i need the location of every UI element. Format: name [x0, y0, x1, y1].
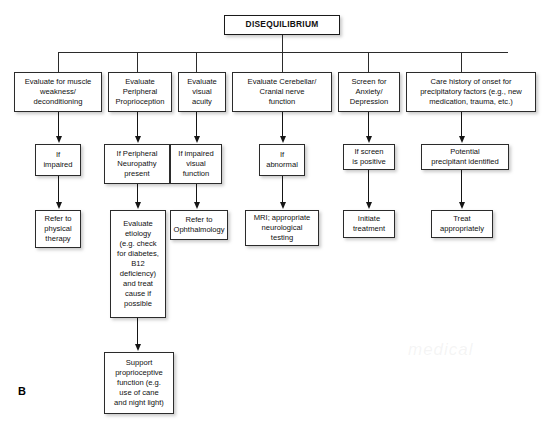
- node-assess-cerebellar-cranial-nerve: Evaluate Cerebellar/ Cranial nerve funct…: [232, 72, 332, 112]
- connector-bus-drop-5: [368, 52, 369, 72]
- node-condition-if-impaired-visual-function: If impaired visual function: [170, 144, 222, 184]
- node-assess-care-history: Care history of onset for precipitatory …: [406, 72, 536, 112]
- node-followup-support-proprioceptive-function: Support proprioceptive function (e.g. us…: [104, 352, 174, 414]
- node-condition-potential-precipitant: Potential precipitant identified: [421, 144, 509, 170]
- node-action-treat-appropriately: Treat appropriately: [431, 210, 493, 238]
- node-action-evaluate-etiology: Evaluate etiology (e.g. check for diabet…: [110, 210, 166, 318]
- flowchart-figure: medical DISEQUILIBRIUM Evaluate for musc…: [0, 0, 550, 432]
- connector-title-to-bus: [282, 35, 283, 52]
- node-condition-if-peripheral-neuropathy: If Peripheral Neuropathy present: [104, 144, 170, 184]
- arrow-condition-to-action-6: [461, 170, 462, 203]
- connector-bus-drop-1: [58, 52, 59, 72]
- node-disequilibrium-title: DISEQUILIBRIUM: [224, 15, 340, 35]
- watermark-text: medical: [408, 340, 474, 360]
- node-assess-anxiety-depression: Screen for Anxiety/ Depression: [338, 72, 400, 112]
- arrow-assess-to-condition-2: [137, 112, 138, 137]
- connector-bus-drop-2: [137, 52, 138, 72]
- node-action-refer-physical-therapy: Refer to physical therapy: [35, 210, 81, 248]
- arrow-assess-to-condition-4: [282, 112, 283, 137]
- connector-bus-drop-4: [282, 52, 283, 72]
- node-action-refer-ophthalmology: Refer to Ophthalmology: [170, 210, 228, 240]
- arrow-condition-to-action-4: [282, 176, 283, 203]
- arrow-assess-to-condition-3: [196, 112, 197, 137]
- node-condition-if-screen-positive: If screen is positive: [343, 144, 395, 170]
- connector-bus-drop-6: [461, 52, 462, 72]
- arrow-action-to-followup-2: [137, 318, 138, 345]
- node-action-mri-neurological-testing: MRI; appropriate neurological testing: [245, 210, 319, 246]
- arrow-condition-to-action-2: [137, 184, 138, 203]
- connector-distribution-bus: [58, 52, 508, 53]
- node-assess-visual-acuity: Evaluate visual acuity: [178, 72, 226, 112]
- connector-bus-drop-3: [196, 52, 197, 72]
- arrow-assess-to-condition-6: [461, 112, 462, 137]
- arrow-condition-to-action-5: [368, 170, 369, 203]
- node-condition-if-impaired: If impaired: [35, 144, 81, 176]
- node-assess-peripheral-proprioception: Evaluate Peripheral Proprioception: [108, 72, 172, 112]
- arrow-condition-to-action-1: [58, 176, 59, 203]
- node-assess-muscle-weakness: Evaluate for muscle weakness/ deconditio…: [14, 72, 102, 112]
- arrow-condition-to-action-3: [196, 184, 197, 203]
- node-action-initiate-treatment: Initiate treatment: [343, 210, 395, 238]
- arrow-assess-to-condition-5: [368, 112, 369, 137]
- node-condition-if-abnormal: If abnormal: [259, 144, 305, 176]
- arrow-assess-to-condition-1: [58, 112, 59, 137]
- panel-letter-label: B: [18, 385, 26, 397]
